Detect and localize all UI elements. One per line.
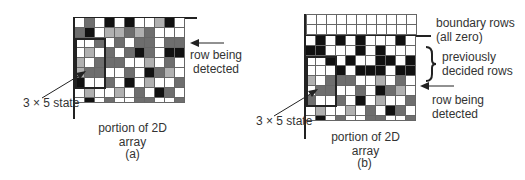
array-cell	[376, 106, 386, 116]
array-cell	[406, 76, 416, 86]
array-cell	[407, 25, 417, 35]
state-label-b: 3 × 5 state	[256, 114, 312, 128]
array-cell	[346, 56, 356, 66]
array-cell	[326, 36, 336, 46]
array-cell	[307, 15, 317, 25]
array-cell	[316, 76, 326, 86]
array-cell	[396, 76, 406, 86]
array-cell	[346, 96, 356, 106]
boundary-rows-label: boundary rows (all zero)	[436, 16, 515, 44]
array-cell	[366, 66, 376, 76]
array-cell	[406, 36, 416, 46]
brace-icon	[424, 46, 438, 82]
array-cell	[306, 56, 316, 66]
array-cell	[326, 116, 336, 121]
array-cell	[406, 96, 416, 106]
array-cell	[356, 96, 366, 106]
array-cell	[356, 86, 366, 96]
array-cell	[316, 46, 326, 56]
array-cell	[357, 15, 367, 25]
array-cell	[407, 15, 417, 25]
array-cell	[366, 86, 376, 96]
array-cell	[396, 96, 406, 106]
array-cell	[366, 96, 376, 106]
array-cell	[317, 25, 327, 35]
array-cell	[366, 46, 376, 56]
array-cell	[366, 116, 376, 121]
array-cell	[396, 36, 406, 46]
array-cell	[347, 15, 357, 25]
array-cell	[406, 56, 416, 66]
array-cell	[317, 15, 327, 25]
array-cell	[387, 15, 397, 25]
array-cell	[386, 56, 396, 66]
array-cell	[406, 86, 416, 96]
array-cell	[356, 106, 366, 116]
array-cell	[336, 76, 346, 86]
array-cell	[376, 76, 386, 86]
array-cell	[396, 66, 406, 76]
array-cell	[347, 25, 357, 35]
array-cell	[396, 46, 406, 56]
array-cell	[326, 96, 336, 106]
array-grid-b	[306, 36, 416, 126]
array-cell	[356, 66, 366, 76]
array-cell	[367, 15, 377, 25]
array-cell	[307, 25, 317, 35]
array-cell	[326, 86, 336, 96]
array-cell	[306, 46, 316, 56]
array-cell	[396, 86, 406, 96]
array-cell	[357, 25, 367, 35]
array-cell	[346, 66, 356, 76]
array-cell	[376, 116, 386, 121]
array-cell	[386, 46, 396, 56]
array-cell	[406, 106, 416, 116]
array-cell	[397, 15, 407, 25]
array-cell	[326, 106, 336, 116]
array-cell	[376, 46, 386, 56]
array-cell	[326, 46, 336, 56]
array-cell	[306, 66, 316, 76]
array-cell	[336, 56, 346, 66]
array-cell	[356, 56, 366, 66]
array-cell	[386, 76, 396, 86]
array-cell	[356, 46, 366, 56]
array-cell	[386, 66, 396, 76]
array-cell	[367, 25, 377, 35]
array-cell	[387, 25, 397, 35]
array-cell	[336, 46, 346, 56]
array-cell	[406, 46, 416, 56]
array-cell	[336, 96, 346, 106]
array-cell	[336, 66, 346, 76]
boundary-rows-grid	[306, 14, 417, 35]
array-cell	[397, 25, 407, 35]
array-cell	[376, 96, 386, 106]
array-cell	[346, 116, 356, 121]
row-being-detected-label-b: row being detected	[432, 93, 484, 121]
array-cell	[326, 56, 336, 66]
array-cell	[396, 106, 406, 116]
array-cell	[326, 66, 336, 76]
array-cell	[366, 36, 376, 46]
array-cell	[366, 76, 376, 86]
array-cell	[366, 106, 376, 116]
array-cell	[376, 56, 386, 66]
array-cell	[306, 36, 316, 46]
array-cell	[396, 116, 406, 121]
caption-b: (b)	[352, 156, 377, 170]
array-cell	[366, 56, 376, 66]
panel-b: boundary rows (all zero) previously deci…	[0, 0, 525, 180]
row-arrow-icon-b	[420, 81, 460, 91]
array-cell	[316, 66, 326, 76]
array-cell	[327, 25, 337, 35]
array-cell	[406, 116, 416, 121]
array-cell	[386, 96, 396, 106]
array-cell	[406, 66, 416, 76]
array-cell	[386, 116, 396, 121]
array-cell	[346, 76, 356, 86]
array-cell	[346, 106, 356, 116]
array-cell	[377, 25, 387, 35]
array-cell	[386, 36, 396, 46]
array-cell	[396, 56, 406, 66]
array-cell	[316, 36, 326, 46]
